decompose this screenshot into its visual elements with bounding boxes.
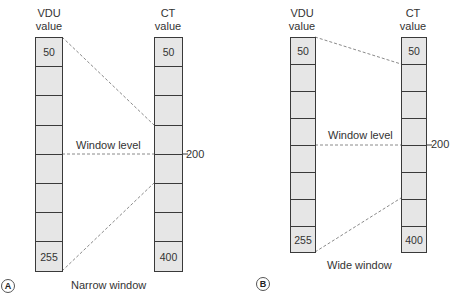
- vdu-cell: 255: [36, 242, 62, 271]
- ct-cell: [155, 126, 182, 155]
- vdu-cell: [291, 173, 315, 200]
- ct-header-line1: CT: [383, 7, 443, 20]
- ct-cell: [155, 184, 182, 213]
- ct-header-a: CT value: [138, 7, 198, 33]
- vdu-cell: [291, 65, 315, 92]
- ct-cell: [402, 173, 426, 200]
- vdu-header-a: VDU value: [19, 7, 79, 33]
- ct-header-line1: CT: [138, 7, 198, 20]
- vdu-header-b: VDU value: [272, 7, 332, 33]
- ct-cell: 50: [402, 38, 426, 65]
- ct-cell: [402, 200, 426, 227]
- upper-window-line-a: [62, 37, 154, 125]
- vdu-cell: 50: [291, 38, 315, 65]
- lower-window-line-a: [62, 183, 154, 271]
- ct-cell: 400: [155, 242, 182, 271]
- vdu-cell: [36, 67, 62, 96]
- vdu-cell: 50: [36, 38, 62, 67]
- vdu-cell: [36, 184, 62, 213]
- ct-cell: 50: [155, 38, 182, 67]
- vdu-column-b: 50 255: [290, 37, 316, 253]
- lower-window-line-b: [315, 198, 401, 252]
- ct-cell: [402, 119, 426, 146]
- vdu-header-line1: VDU: [19, 7, 79, 20]
- ct-cell: [155, 96, 182, 125]
- window-level-value-b: 200: [431, 138, 449, 150]
- ct-cell: [402, 146, 426, 173]
- mapping-lines: [0, 0, 452, 298]
- ct-cell: 400: [402, 227, 426, 252]
- ct-header-b: CT value: [383, 7, 443, 33]
- caption-b: Wide window: [327, 259, 392, 271]
- vdu-header-line2: value: [272, 20, 332, 33]
- vdu-cell: [36, 155, 62, 184]
- window-level-value-a: 200: [186, 148, 204, 160]
- ct-cell: [155, 213, 182, 242]
- vdu-column-a: 50 255: [35, 37, 63, 272]
- panel-badge-a: A: [1, 279, 15, 293]
- ct-column-b: 50 400: [401, 37, 427, 253]
- ct-column-a: 50 400: [154, 37, 183, 272]
- vdu-cell: [36, 213, 62, 242]
- ct-cell: [402, 92, 426, 119]
- vdu-cell: [36, 96, 62, 125]
- panel-badge-b: B: [256, 277, 270, 291]
- vdu-cell: [291, 146, 315, 173]
- caption-a: Narrow window: [71, 279, 146, 291]
- window-level-label-a: Window level: [76, 139, 141, 151]
- ct-header-line2: value: [138, 20, 198, 33]
- vdu-cell: [291, 119, 315, 146]
- vdu-header-line2: value: [19, 20, 79, 33]
- window-level-label-b: Window level: [328, 129, 393, 141]
- ct-header-line2: value: [383, 20, 443, 33]
- ct-cell: [155, 67, 182, 96]
- vdu-cell: [291, 200, 315, 227]
- ct-cell: [155, 155, 182, 184]
- vdu-header-line1: VDU: [272, 7, 332, 20]
- vdu-cell: [291, 92, 315, 119]
- upper-window-line-b: [315, 37, 401, 64]
- vdu-cell: [36, 126, 62, 155]
- ct-cell: [402, 65, 426, 92]
- vdu-cell: 255: [291, 227, 315, 252]
